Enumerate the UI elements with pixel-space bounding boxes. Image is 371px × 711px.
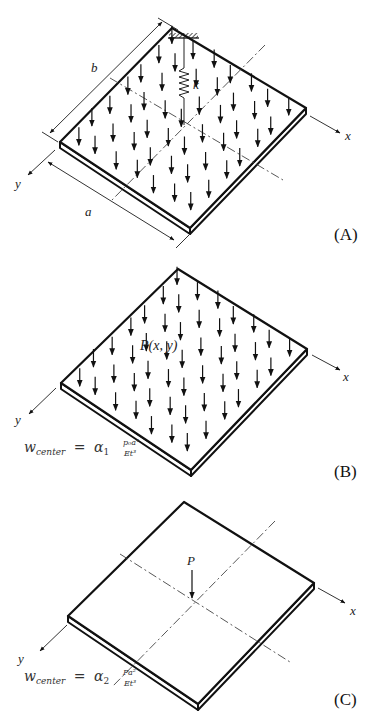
y-axis-label: y bbox=[16, 651, 24, 666]
fixed-support-hatch bbox=[169, 33, 198, 38]
svg-text:p₀a⁴: p₀a⁴ bbox=[123, 438, 139, 447]
dimension-b-ext2 bbox=[42, 132, 58, 142]
panel-c: x y P wcenter = α2 Pa² Et³ (C) bbox=[16, 502, 357, 710]
svg-text:wcenter = α2: wcenter = α2 bbox=[24, 668, 109, 687]
plate-top bbox=[68, 502, 314, 704]
x-axis-label: x bbox=[342, 369, 349, 384]
svg-text:Pa²: Pa² bbox=[122, 668, 136, 677]
x-axis-label: x bbox=[349, 603, 356, 618]
y-axis-label: y bbox=[13, 176, 21, 191]
y-axis-arrow bbox=[40, 625, 67, 651]
y-axis-arrow bbox=[28, 150, 55, 175]
panel-label-b: (B) bbox=[334, 462, 357, 481]
x-axis-label: x bbox=[344, 128, 351, 143]
load-label: P(x, y) bbox=[139, 338, 178, 354]
panel-b: x y P(x, y) wcenter = α1 p₀a⁴ Et³ (B) bbox=[13, 267, 357, 481]
panel-a: x y b a k (A) bbox=[13, 18, 358, 248]
formula-w-center-2: wcenter = α2 Pa² Et³ bbox=[24, 668, 136, 688]
plate-top bbox=[60, 28, 306, 228]
y-axis-arrow bbox=[29, 388, 56, 414]
panel-label-a: (A) bbox=[334, 225, 358, 244]
dimension-b-label: b bbox=[91, 60, 98, 75]
plate-figure: x y b a k (A) x y bbox=[0, 0, 371, 711]
x-axis-arrow bbox=[312, 355, 340, 370]
dimension-b-ext1 bbox=[158, 18, 178, 30]
svg-text:Et³: Et³ bbox=[123, 449, 136, 458]
dimension-a-label: a bbox=[85, 204, 92, 219]
svg-text:Et³: Et³ bbox=[123, 679, 136, 688]
formula-w-center-1: wcenter = α1 p₀a⁴ Et³ bbox=[24, 438, 139, 458]
y-axis-label: y bbox=[13, 412, 21, 427]
dimension-a-ext bbox=[176, 234, 190, 248]
load-label: P bbox=[186, 553, 195, 568]
svg-text:wcenter = α1: wcenter = α1 bbox=[24, 439, 109, 458]
x-axis-arrow bbox=[318, 588, 345, 603]
panel-label-c: (C) bbox=[334, 690, 357, 709]
x-axis-arrow bbox=[310, 116, 340, 133]
